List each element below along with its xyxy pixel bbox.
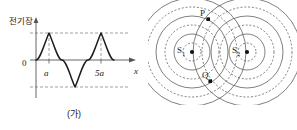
source-s2-label: S2	[232, 45, 240, 57]
x-axis-arrowhead	[129, 57, 136, 62]
x-axis-label: x	[134, 66, 138, 76]
source-s1-subscript: 1	[182, 50, 185, 57]
source-s1-marker	[190, 50, 194, 54]
y-axis-label: 전기장	[9, 14, 33, 26]
x-tick-label-5a: 5a	[95, 68, 104, 78]
two-source-interference-diagram	[148, 0, 297, 105]
panel-interference: P Q S1 S2 (나)	[148, 0, 297, 130]
source-s1-label: S1	[177, 45, 185, 57]
caption-panel-ga: (가)	[44, 107, 104, 120]
figure-container: 전기장 0 a 5a x (가)	[0, 0, 297, 130]
point-p-label: P	[200, 8, 205, 18]
panel-graph: 전기장 0 a 5a x (가)	[0, 0, 148, 130]
point-p-marker	[206, 17, 210, 21]
x-tick-label-a: a	[44, 68, 49, 78]
source-s2-marker	[245, 50, 249, 54]
source-s2-subscript: 2	[237, 50, 240, 57]
point-q-label: Q	[202, 70, 209, 80]
origin-label: 0	[22, 58, 27, 68]
y-axis-arrowhead	[34, 17, 39, 23]
